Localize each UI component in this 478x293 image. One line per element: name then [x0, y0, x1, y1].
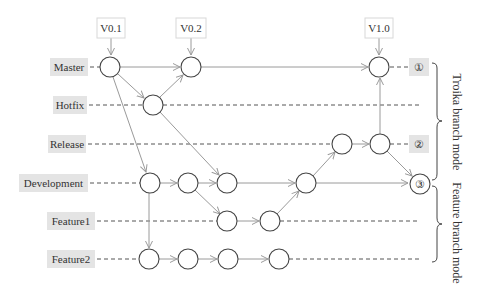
- group-label-troika: Troika branch mode: [450, 74, 464, 171]
- troika-brace: [432, 63, 442, 180]
- branch-lines: [88, 67, 420, 259]
- version-tag-v1-0: V1.0: [368, 22, 390, 34]
- commit-node: [369, 57, 389, 77]
- commit-node: [217, 211, 237, 231]
- group-braces: [432, 63, 442, 262]
- markers: ① ② ③: [409, 58, 429, 190]
- branch-labels: Master Hotfix Release Development Featur…: [19, 58, 95, 268]
- commit-node: [260, 211, 280, 231]
- version-tag-v0-1: V0.1: [100, 22, 122, 34]
- commit-node: [332, 134, 352, 154]
- git-branching-diagram: V0.1 V0.2 V1.0 Master Hotfix Release Dev…: [0, 0, 478, 293]
- version-tags: V0.1 V0.2 V1.0: [97, 18, 393, 38]
- feature-brace: [432, 186, 442, 262]
- branch-label-feature1: Feature1: [52, 215, 90, 227]
- commit-node: [218, 249, 238, 269]
- version-tag-v0-2: V0.2: [180, 22, 202, 34]
- commit-node: [143, 95, 163, 115]
- commit-node: [178, 249, 198, 269]
- branch-label-hotfix: Hotfix: [56, 99, 85, 111]
- commit-node: [140, 173, 160, 193]
- commit-node: [269, 249, 289, 269]
- commit-node: [217, 173, 237, 193]
- marker-1: ①: [414, 61, 424, 73]
- branch-label-release: Release: [50, 138, 84, 150]
- commit-node: [181, 57, 201, 77]
- commit-node: [178, 173, 198, 193]
- group-label-feature: Feature branch mode: [450, 182, 464, 283]
- commit-node: [100, 57, 120, 77]
- marker-3: ③: [415, 178, 425, 190]
- branch-label-development: Development: [24, 177, 83, 189]
- commit-node: [139, 249, 159, 269]
- commit-node: [296, 173, 316, 193]
- commit-node: [370, 134, 390, 154]
- branch-label-master: Master: [54, 61, 85, 73]
- branch-label-feature2: Feature2: [52, 253, 90, 265]
- marker-2: ②: [414, 138, 424, 150]
